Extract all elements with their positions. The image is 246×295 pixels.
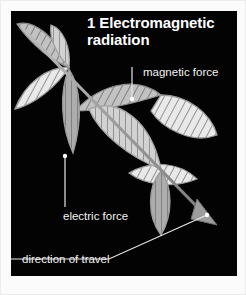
label-magnetic-force: magnetic force: [143, 66, 218, 79]
figure-black-panel: 1 Electromagnetic radiation magnetic for…: [11, 11, 237, 276]
figure-title: 1 Electromagnetic radiation: [87, 14, 233, 48]
magnetic-force-leader-dot: [130, 97, 134, 101]
electric-force-wave: [51, 25, 170, 235]
direction-of-travel-leader-dot: [205, 213, 209, 217]
label-direction-of-travel: direction of travel: [22, 253, 110, 266]
magnetic-lobe-4: [151, 95, 217, 138]
magnetic-lobe-2: [15, 67, 69, 109]
electromagnetic-wave-diagram: [11, 11, 237, 276]
label-electric-force: electric force: [63, 210, 128, 223]
electric-lobe-2: [63, 69, 80, 153]
figure-root: 1 Electromagnetic radiation magnetic for…: [0, 0, 246, 295]
electric-force-leader-dot: [63, 154, 67, 158]
magnetic-lobe-3: [75, 84, 161, 111]
